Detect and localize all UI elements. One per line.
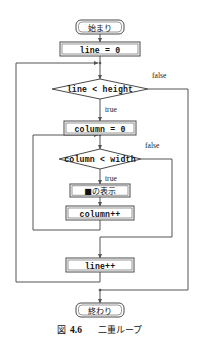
figure-double-loop: 始まり line = 0 line < height column = 0 co… <box>0 0 202 342</box>
column-cond-label: column < width <box>64 155 136 164</box>
node-print[interactable]: ■の表示 <box>70 184 130 197</box>
column-init-label: column = 0 <box>74 125 125 134</box>
line-inc-label: line++ <box>85 262 116 271</box>
node-column-inc[interactable]: column++ <box>66 206 134 220</box>
node-column-init[interactable]: column = 0 <box>64 121 136 135</box>
node-start[interactable]: 始まり <box>76 20 124 34</box>
node-column-cond[interactable]: column < width <box>59 149 141 169</box>
edge-label-outer-true: true <box>105 105 117 114</box>
junction-outer-loop <box>99 62 102 65</box>
print-label: ■の表示 <box>84 186 116 196</box>
end-label: 終わり <box>88 306 112 316</box>
edge-label-outer-false: false <box>152 71 167 80</box>
edge-label-inner-true: true <box>105 174 117 183</box>
edge-label-inner-false: false <box>145 141 160 150</box>
caption-number: 4.6 <box>70 325 82 335</box>
caption-title: 二重ループ <box>98 324 142 335</box>
start-label: 始まり <box>88 23 112 33</box>
node-line-inc[interactable]: line++ <box>66 258 134 272</box>
flowchart-diagram: 始まり line = 0 line < height column = 0 co… <box>0 0 202 342</box>
line-init-label: line = 0 <box>80 46 121 55</box>
node-end[interactable]: 終わり <box>76 303 124 317</box>
node-line-init[interactable]: line = 0 <box>60 42 140 56</box>
column-inc-label: column++ <box>80 210 121 219</box>
edge-inner-false <box>100 159 172 237</box>
caption-label: 図 <box>57 325 66 335</box>
node-line-cond[interactable]: line < height <box>52 79 148 99</box>
line-cond-label: line < height <box>67 85 133 94</box>
